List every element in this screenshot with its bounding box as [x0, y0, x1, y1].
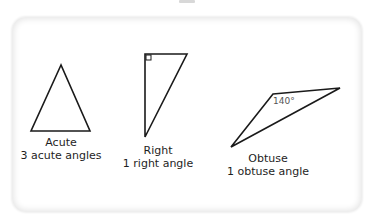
right-title: Right: [144, 145, 173, 157]
triangles-figure: [0, 0, 373, 221]
right-description: 1 right angle: [123, 158, 193, 170]
right-triangle-shape: [145, 54, 187, 137]
acute-triangle-shape: [31, 65, 90, 131]
acute-description: 3 acute angles: [20, 150, 101, 162]
obtuse-title: Obtuse: [248, 153, 287, 165]
acute-title: Acute: [45, 137, 76, 149]
obtuse-description: 1 obtuse angle: [227, 166, 309, 178]
right-angle-marker-icon: [146, 55, 151, 60]
obtuse-angle-label: 140°: [273, 96, 295, 106]
